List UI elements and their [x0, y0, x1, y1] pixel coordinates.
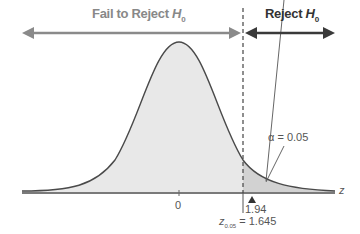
reject-label: Reject H0 — [265, 6, 319, 24]
reject-arrow-right-head — [323, 27, 335, 39]
alpha-pointer — [266, 0, 284, 181]
alpha-label: α = 0.05 — [268, 131, 308, 143]
h0-symbol: H0 — [172, 6, 185, 21]
critical-equation: = 1.645 — [239, 215, 276, 227]
z-axis-label: z — [339, 184, 345, 196]
reject-arrow-left-head — [245, 27, 257, 39]
fail-arrow-right-head — [229, 27, 241, 39]
rejection-region-fill — [243, 160, 335, 192]
reject-text: Reject — [265, 6, 302, 21]
test-statistic-marker — [248, 196, 256, 203]
curve-fill — [22, 42, 335, 192]
critical-subscript: 0.05 — [225, 223, 237, 229]
test-statistic-label: 1.94 — [245, 203, 266, 215]
fail-arrow-left-head — [22, 27, 34, 39]
fail-to-reject-text: Fail to Reject — [92, 6, 169, 21]
critical-value-label: z0.05 = 1.645 — [219, 215, 276, 229]
h0-symbol: H0 — [306, 6, 319, 21]
fail-to-reject-label: Fail to Reject H0 — [92, 6, 185, 24]
zero-label: 0 — [175, 199, 181, 211]
